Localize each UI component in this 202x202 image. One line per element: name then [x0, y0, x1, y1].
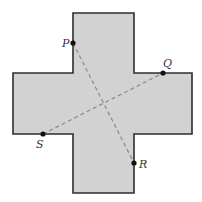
point-s: [40, 131, 45, 136]
label-q: Q: [163, 57, 172, 70]
label-r: R: [138, 158, 147, 171]
point-q: [160, 70, 165, 75]
cross-diagram: P Q R S: [0, 0, 202, 202]
label-p: P: [61, 37, 70, 50]
cross-shape: [13, 13, 192, 193]
point-p: [70, 40, 75, 45]
label-s: S: [36, 138, 44, 151]
diagram-svg: P Q R S: [0, 0, 202, 202]
point-r: [131, 160, 136, 165]
